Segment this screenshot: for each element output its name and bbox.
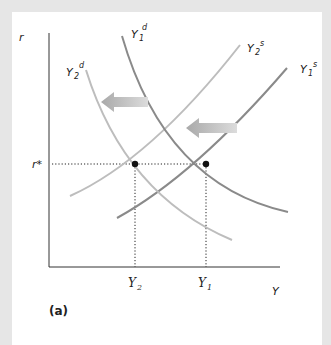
svg-text:Y: Y [66,66,74,79]
equilibrium-point-y1 [203,161,209,167]
svg-text:d: d [79,61,85,70]
svg-text:Y: Y [247,42,255,55]
svg-text:d: d [142,23,148,32]
equilibrium-point-y2 [132,161,138,167]
label-y2-supply: Y 2 s [247,39,264,57]
label-y2-demand: Y 2 d [66,61,85,81]
svg-text:s: s [260,39,264,48]
demand-shift-arrow [101,92,148,112]
tick-y2-main: Y [128,276,137,290]
tick-y1-main: Y [198,276,207,290]
supply-shift-arrow [186,118,237,138]
svg-text:1: 1 [308,69,313,78]
tick-y2-sub: 2 [136,283,142,292]
label-y1-supply: Y 1 s [300,60,317,78]
svg-text:s: s [313,60,317,69]
tick-y1-sub: 1 [207,283,212,292]
r-star-label: r* [32,158,43,171]
label-y1-demand: Y 1 d [131,23,148,43]
curve-y2-demand [86,70,232,240]
y-axis-label: r [19,31,25,44]
svg-text:2: 2 [74,72,79,81]
svg-text:1: 1 [139,34,144,43]
svg-text:Y: Y [300,63,308,76]
curve-y2-supply [70,45,240,196]
chart-svg: r Y r* Y 2 Y 1 Y 1 d Y 2 d Y 2 s Y 1 s (… [0,0,331,345]
x-axis-label: Y [272,285,280,298]
svg-text:2: 2 [255,48,260,57]
panel-label: (a) [49,304,68,318]
svg-text:Y: Y [131,28,139,41]
